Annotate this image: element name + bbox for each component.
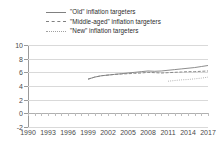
y-axis-label: 4	[19, 83, 23, 90]
plot-area: 1086420-2 199019931996199920022005200820…	[28, 45, 208, 127]
y-axis-label: 0	[19, 110, 23, 117]
y-axis-label: 8	[19, 55, 23, 62]
chart-legend: "Old" inflation targeters "Middle-aged" …	[46, 7, 212, 36]
inflation-targeters-line-chart: "Old" inflation targeters "Middle-aged" …	[0, 0, 216, 148]
series-line-dashed	[88, 71, 208, 79]
x-axis-label: 2008	[140, 129, 156, 136]
y-axis-label: 2	[19, 96, 23, 103]
x-axis-label: 2017	[200, 129, 216, 136]
legend-item-middle-aged: "Middle-aged" inflation targeters	[46, 17, 212, 27]
legend-label-old: "Old" inflation targeters	[70, 7, 136, 16]
gridline	[28, 127, 208, 128]
legend-item-old: "Old" inflation targeters	[46, 7, 212, 17]
y-axis-label: 10	[15, 42, 23, 49]
x-tick	[208, 113, 209, 116]
x-axis-label: 1990	[20, 129, 36, 136]
legend-item-new: "New" inflation targeters	[46, 26, 212, 36]
series-line-dotted	[168, 77, 208, 81]
y-axis-label: 6	[19, 69, 23, 76]
x-axis-label: 2005	[120, 129, 136, 136]
legend-label-middle-aged: "Middle-aged" inflation targeters	[70, 17, 161, 26]
x-axis-label: 2011	[160, 129, 175, 136]
legend-line-dashed-icon	[46, 18, 66, 24]
x-axis-label: 1996	[60, 129, 76, 136]
legend-line-solid-icon	[46, 9, 66, 15]
x-axis-label: 1993	[40, 129, 56, 136]
legend-label-new: "New" inflation targeters	[70, 26, 138, 35]
x-axis-label: 2002	[100, 129, 116, 136]
y-tick	[24, 127, 28, 128]
legend-line-dotted-icon	[46, 28, 66, 34]
data-series	[28, 45, 208, 127]
x-axis-label: 2014	[180, 129, 196, 136]
x-axis-label: 1999	[80, 129, 96, 136]
